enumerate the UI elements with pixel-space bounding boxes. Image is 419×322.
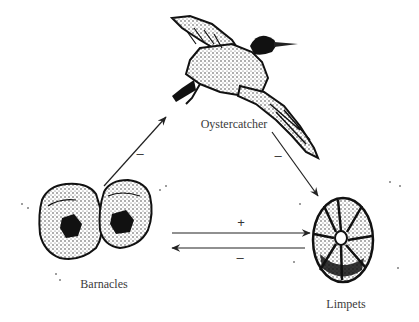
bird-illustration-icon bbox=[172, 16, 318, 158]
oystercatcher-label: Oystercatcher bbox=[201, 117, 268, 131]
limpets-label: Limpets bbox=[326, 297, 366, 311]
sign-oystercatcher-limpets: – bbox=[274, 148, 282, 163]
limpet-illustration-icon bbox=[293, 181, 401, 282]
interaction-diagram: Oystercatcher Barnacles Limpets bbox=[0, 0, 419, 322]
sign-limpets-barnacles: – bbox=[236, 250, 244, 265]
arrow-barnacles-to-oystercatcher bbox=[104, 117, 166, 186]
barnacle-illustration-icon bbox=[21, 180, 167, 281]
barnacles-label: Barnacles bbox=[80, 277, 128, 291]
diagram-canvas: Oystercatcher Barnacles Limpets bbox=[0, 0, 419, 322]
sign-barnacles-limpets: + bbox=[237, 215, 245, 230]
sign-barnacles-oystercatcher: – bbox=[136, 146, 144, 161]
